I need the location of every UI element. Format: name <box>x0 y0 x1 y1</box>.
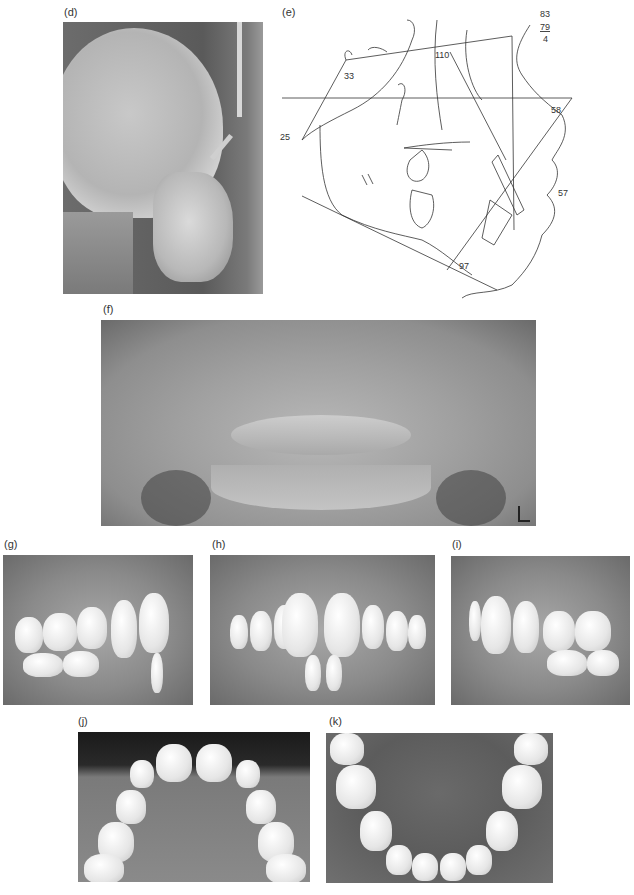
lower-incisor <box>305 655 321 691</box>
maxillary-dentition <box>231 415 411 455</box>
tooth <box>84 854 124 882</box>
face-shape <box>153 172 233 282</box>
tooth <box>469 601 481 641</box>
mandibular-dentition <box>211 465 431 510</box>
tooth <box>250 611 272 651</box>
tooth <box>362 605 384 649</box>
panel-label-h: (h) <box>212 538 225 550</box>
panel-label-g: (g) <box>4 538 17 550</box>
value-25: 25 <box>280 132 290 142</box>
tooth <box>43 613 77 651</box>
upper-central-incisor <box>156 744 192 782</box>
lower-incisor <box>412 853 438 881</box>
panel-label-j: (j) <box>78 715 88 727</box>
tooth <box>386 611 408 651</box>
tooth <box>246 790 276 824</box>
tooth <box>63 651 99 677</box>
value-97: 97 <box>459 261 469 271</box>
tooth <box>543 611 575 651</box>
tooth <box>466 845 492 875</box>
value-79: 79 <box>540 22 550 32</box>
upper-central-incisor <box>196 744 232 782</box>
panel-label-f: (f) <box>103 303 113 315</box>
tooth <box>502 765 542 809</box>
nasion-relator-rod <box>237 22 242 117</box>
tooth <box>266 854 306 882</box>
tooth <box>575 611 611 651</box>
value-110: 110 <box>435 50 449 60</box>
tooth <box>587 650 619 676</box>
occlusal-photo-mandibular <box>326 733 553 883</box>
tooth <box>130 760 154 788</box>
lower-incisor <box>440 853 466 881</box>
value-4: 4 <box>543 34 548 44</box>
tooth <box>386 845 412 875</box>
cervical-spine-shape <box>63 212 133 294</box>
tooth <box>486 811 518 851</box>
tooth <box>151 653 163 693</box>
airway-shadow-right <box>436 470 506 526</box>
tooth <box>360 811 392 851</box>
airway-shadow-left <box>141 470 211 526</box>
tooth <box>139 593 169 653</box>
occlusal-photo-maxillary <box>78 732 310 882</box>
intraoral-photo-left <box>451 556 630 705</box>
cephalometric-radiograph <box>63 22 263 294</box>
tooth <box>77 607 107 649</box>
tooth <box>116 790 146 824</box>
intraoral-photo-right <box>3 555 193 705</box>
tooth <box>330 733 364 765</box>
tooth <box>15 617 43 653</box>
tooth <box>111 600 137 658</box>
panel-label-d: (d) <box>64 6 77 18</box>
tooth <box>514 733 548 765</box>
upper-central-incisor <box>324 593 360 657</box>
tooth <box>336 765 376 809</box>
tooth <box>547 650 587 676</box>
tooth <box>236 760 260 788</box>
tooth <box>408 615 426 649</box>
panoramic-radiograph <box>101 320 536 526</box>
panel-label-i: (i) <box>452 538 462 550</box>
upper-central-incisor <box>282 593 318 657</box>
value-83: 83 <box>540 9 550 19</box>
tooth <box>23 653 63 677</box>
cephalometric-tracing: 83 79 4 110 33 58 25 57 97 <box>272 0 592 300</box>
lower-incisor <box>326 655 342 691</box>
tooth <box>230 615 248 649</box>
left-side-marker-icon <box>518 506 530 522</box>
value-58: 58 <box>551 105 561 115</box>
tooth <box>513 601 539 653</box>
panel-label-k: (k) <box>329 715 342 727</box>
intraoral-photo-frontal <box>210 555 435 705</box>
tooth <box>481 596 511 654</box>
value-57: 57 <box>558 188 568 198</box>
value-33: 33 <box>344 71 354 81</box>
